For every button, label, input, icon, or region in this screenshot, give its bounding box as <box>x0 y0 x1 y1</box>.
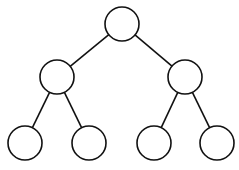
edge-left-to-left-left <box>32 92 49 127</box>
tree-node-right-right <box>200 126 234 160</box>
tree-node-left-left <box>8 126 42 160</box>
tree-node-right-left <box>137 126 171 160</box>
edge-left-to-left-right <box>64 92 81 127</box>
edge-right-to-right-left <box>161 92 178 127</box>
binary-tree-diagram <box>0 0 239 170</box>
tree-node-root <box>105 7 139 41</box>
tree-node-left-right <box>72 126 106 160</box>
tree-node-left <box>40 60 74 94</box>
tree-nodes <box>8 7 234 160</box>
edge-root-to-right <box>135 35 172 66</box>
edge-root-to-left <box>70 35 109 67</box>
edge-right-to-right-right <box>192 92 209 127</box>
tree-node-right <box>168 60 202 94</box>
